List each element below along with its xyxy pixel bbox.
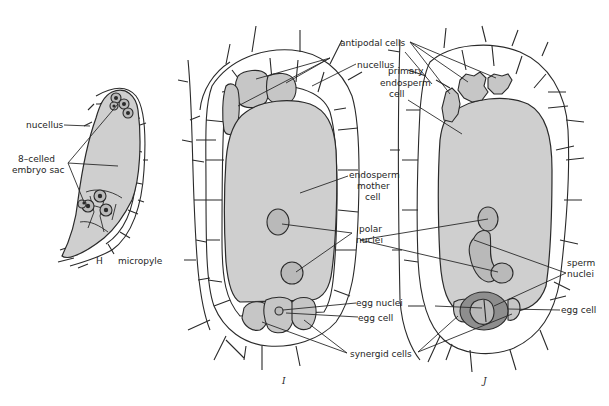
label-endosperm-1: endosperm [349, 170, 400, 180]
caption-j: J [481, 376, 488, 386]
egg-nucleus-i [275, 307, 283, 315]
polar-nucleus-2 [281, 262, 303, 284]
antipodal-cell-j-1 [458, 72, 488, 102]
caption-i: I [281, 376, 286, 386]
label-antipodal-cells: antipodal cells [340, 38, 406, 48]
label-endosperm-2: mother [357, 181, 390, 191]
label-primary-2: endosperm [380, 78, 431, 88]
label-h-embryo-sac-1: 8–celled [18, 154, 55, 164]
label-endosperm-3: cell [365, 192, 381, 202]
panel-j: primary endosperm cell sperm nuclei egg … [360, 26, 596, 386]
label-h-embryo-sac-2: embryo sac [12, 165, 65, 175]
label-primary-3: cell [389, 89, 405, 99]
label-h-nucellus: nucellus [26, 120, 64, 130]
label-polar-1: polar [359, 224, 382, 234]
antipodal-cell-1 [235, 70, 269, 107]
label-h-micropyle: micropyle [118, 256, 163, 266]
label-egg-nuclei: egg nuclei [356, 298, 403, 308]
panel-i: antipodal cells nucellus endosperm mothe… [178, 26, 412, 386]
label-j-egg-cell: egg cell [561, 305, 596, 315]
embryo-sac-diagram: nucellus 8–celled embryo sac H micropyle [0, 0, 609, 406]
panel-h: nucellus 8–celled embryo sac H micropyle [12, 88, 163, 268]
antipodal-cell-j-2 [488, 74, 512, 94]
polar-nucleus-1 [267, 209, 289, 235]
label-synergid-cells: synergid cells [350, 349, 412, 359]
label-i-egg-cell: egg cell [358, 313, 393, 323]
caption-h: H [96, 256, 103, 266]
label-sperm-1: sperm [567, 258, 595, 268]
label-primary-1: primary [388, 66, 424, 76]
polar-nucleus-j-2 [491, 263, 513, 283]
label-sperm-2: nuclei [567, 269, 594, 279]
